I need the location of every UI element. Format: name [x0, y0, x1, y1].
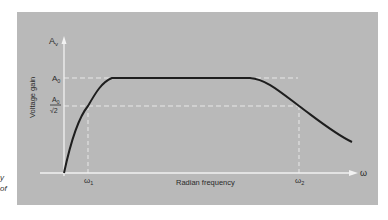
w1-tick-label: ω1 [84, 176, 93, 186]
a0-tick-label: A0 [52, 74, 60, 84]
w2-tick-label: ω2 [295, 176, 304, 186]
y-axis-symbol: Av [49, 36, 58, 47]
y-axis-label: Voltage gain [28, 77, 37, 118]
y-axis-arrow-icon [62, 36, 67, 44]
x-axis-symbol: ω [360, 168, 367, 178]
x-axis-label: Radian frequency [176, 178, 235, 187]
gain-curve [64, 78, 352, 173]
half-power-numerator: A0 [52, 96, 60, 105]
frequency-response-chart: Av A0 A0 √2 Voltage gain ω1 ω2 Radian fr… [0, 0, 388, 220]
x-axis-arrow-icon [349, 170, 358, 176]
half-power-denominator: √2 [50, 107, 58, 114]
